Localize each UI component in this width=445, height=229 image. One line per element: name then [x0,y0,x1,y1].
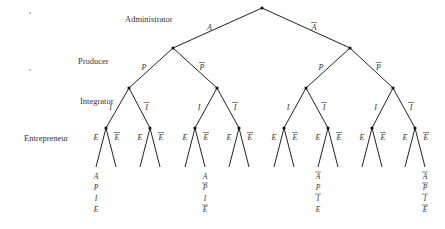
edge-administrator [173,8,262,48]
branch-label-entrepreneur: E [114,133,120,142]
entrepreneur-node [413,126,416,129]
branch-label-administrator: A [206,23,212,32]
branch-label-integrator: I [409,103,413,112]
level-label-producer: Producer [78,56,109,66]
leaf-outcome-label: I [94,194,98,203]
branch-label-administrator: A [311,23,317,32]
root-node [260,6,263,9]
leaf-outcome-label: A [202,172,208,181]
branch-label-integrator: I [233,103,237,112]
entrepreneur-node [282,126,285,129]
edge-administrator [262,8,350,48]
branch-label-producer: P [141,63,147,72]
decision-tree: AAPPPPIIIIIIIIEEEEEEEEEEEEEEEE APIEAPIEA… [0,0,445,229]
producer-node [348,46,351,49]
branch-label-entrepreneur: E [402,133,408,142]
integrator-node [304,86,307,89]
branch-label-entrepreneur: E [137,133,143,142]
branch-label-producer: P [318,63,324,72]
branch-label-entrepreneur: E [271,133,277,142]
entrepreneur-node [237,126,240,129]
entrepreneur-node [104,126,107,129]
producer-node [171,46,174,49]
edge-producer [350,48,393,88]
leaf-outcome-label: P [422,183,428,192]
integrator-node [391,86,394,89]
leaf-outcome-label: P [93,183,99,192]
branch-label-entrepreneur: E [292,133,298,142]
branch-label-entrepreneur: E [315,133,321,142]
branch-label-integrator: I [322,103,326,112]
edge-producer [306,48,350,88]
leaf-outcome-label: E [422,205,428,214]
entrepreneur-node [370,126,373,129]
branch-label-integrator: I [373,103,377,112]
margin-dot [29,69,31,71]
leaf-outcome-label: E [93,205,99,214]
edge-producer [173,48,217,88]
margin-dot [29,12,31,14]
branch-label-entrepreneur: E [380,133,386,142]
integrator-node [127,86,130,89]
entrepreneur-node [193,126,196,129]
branch-label-producer: P [199,63,205,72]
branch-label-integrator: I [286,103,290,112]
integrator-node [215,86,218,89]
entrepreneur-node [326,126,329,129]
leaf-outcome-label: P [202,183,208,192]
level-label-integrator: Integrator [80,96,114,106]
branch-label-entrepreneur: E [247,133,253,142]
level-label-entrepreneur: Entrepreneur [24,133,69,143]
branch-label-integrator: I [197,103,201,112]
branch-label-entrepreneur: E [336,133,342,142]
leaf-outcome-label: A [315,172,321,181]
entrepreneur-node [148,126,151,129]
leaf-outcome-label: P [315,183,321,192]
branch-label-entrepreneur: E [203,133,209,142]
edge-producer [129,48,173,88]
leaf-outcome-label: E [202,205,208,214]
leaf-outcome-label: A [422,172,428,181]
leaf-outcome-label: A [93,172,99,181]
leaf-outcome-label: E [315,205,321,214]
branch-label-entrepreneur: E [182,133,188,142]
leaf-outcome-label: I [316,194,320,203]
branch-label-entrepreneur: E [423,133,429,142]
branch-label-integrator: I [144,103,148,112]
branch-label-entrepreneur: E [359,133,365,142]
branch-label-entrepreneur: E [226,133,232,142]
leaf-outcome-label: I [423,194,427,203]
leaf-outcome-label: I [203,194,207,203]
branch-label-producer: P [375,63,381,72]
level-label-administrator: Administrator [125,14,173,24]
branch-label-entrepreneur: E [158,133,164,142]
branch-label-entrepreneur: E [93,133,99,142]
